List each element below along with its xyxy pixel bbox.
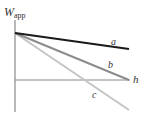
y-axis-label-subscript: app [14,11,26,20]
line-a-label: a [111,37,116,47]
x-axis-label: h [133,74,139,85]
y-axis-label: Wapp [4,6,26,20]
wapp-vs-h-diagram: Wapp h a b c [0,0,145,118]
y-axis-label-main: W [4,5,14,19]
line-c-label: c [92,90,96,100]
line-b-label: b [108,60,113,70]
